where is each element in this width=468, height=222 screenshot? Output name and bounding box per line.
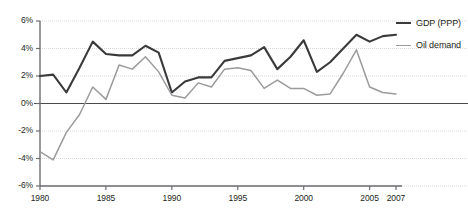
chart-container: 6%4%2%0%-2%-4%-6% 1980198519901995200020… <box>0 0 468 222</box>
legend-label-gdp: GDP (PPP) <box>416 18 461 28</box>
legend-label-oil-demand: Oil demand <box>416 40 461 50</box>
x-tick-label-2000: 2000 <box>287 193 321 203</box>
y-tick-label--4: -4% <box>2 153 33 163</box>
series-line-gdp-ppp <box>40 35 396 93</box>
x-tick-label-1995: 1995 <box>221 193 255 203</box>
x-tick-label-1985: 1985 <box>89 193 123 203</box>
legend-item-gdp: GDP (PPP) <box>396 14 468 32</box>
x-tick-label-2007: 2007 <box>379 193 413 203</box>
series-lines <box>40 35 396 160</box>
y-tick-label-2: 2% <box>2 70 33 80</box>
y-tick-label-0: 0% <box>2 98 33 108</box>
legend-swatch-gdp-icon <box>396 22 411 24</box>
y-tick-label--2: -2% <box>2 125 33 135</box>
x-tick-label-1980: 1980 <box>23 193 57 203</box>
y-tick-label-6: 6% <box>2 15 33 25</box>
legend-item-oil-demand: Oil demand <box>396 36 468 54</box>
x-tick-label-1990: 1990 <box>155 193 189 203</box>
chart-legend: GDP (PPP) Oil demand <box>396 14 468 58</box>
legend-swatch-oil-demand-icon <box>396 45 411 46</box>
y-tick-label--6: -6% <box>2 180 33 190</box>
series-line-oil-demand <box>40 50 396 160</box>
y-tick-label-4: 4% <box>2 43 33 53</box>
